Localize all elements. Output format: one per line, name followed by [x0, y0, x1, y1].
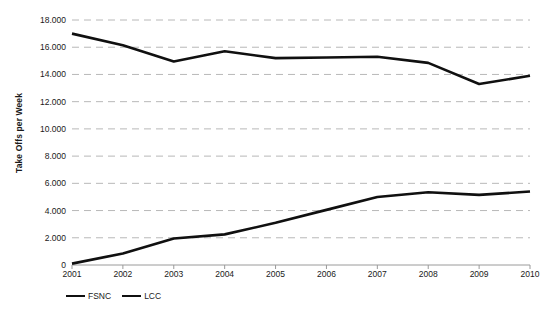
y-axis-tick-label: 2.000	[45, 233, 66, 243]
y-axis-tick-label: 8.000	[45, 151, 66, 161]
y-axis-tick-label: 14.000	[40, 69, 66, 79]
x-axis-tick-label: 2007	[354, 269, 400, 279]
y-axis-tick-labels: 02.0004.0006.0008.00010.00012.00014.0001…	[0, 20, 66, 265]
x-axis-tick-labels: 2001200220032004200520062007200820092010	[72, 269, 530, 285]
y-axis-tick-label: 4.000	[45, 206, 66, 216]
legend-label: FSNC	[88, 292, 111, 301]
series-line-fsnc	[72, 34, 530, 84]
legend-label: LCC	[144, 292, 161, 301]
y-axis-tick-label: 6.000	[45, 178, 66, 188]
series-line-lcc	[72, 192, 530, 264]
x-axis-tick-label: 2002	[100, 269, 146, 279]
x-axis-tick-label: 2008	[405, 269, 451, 279]
line-chart: Take Offs per Week 02.0004.0006.0008.000…	[0, 0, 547, 319]
legend-item-fsnc[interactable]: FSNC	[66, 292, 111, 301]
legend-line-swatch-icon	[66, 295, 85, 297]
x-axis-tick-label: 2005	[253, 269, 299, 279]
y-axis-tick-label: 16.000	[40, 42, 66, 52]
y-axis-tick-label: 18.000	[40, 15, 66, 25]
x-axis-tick-label: 2006	[303, 269, 349, 279]
x-axis-tick-label: 2003	[151, 269, 197, 279]
x-axis-tick-label: 2010	[507, 269, 547, 279]
x-axis-tick-label: 2004	[202, 269, 248, 279]
plot-area	[72, 20, 530, 265]
legend-line-swatch-icon	[122, 295, 141, 297]
x-axis-tick-label: 2009	[456, 269, 502, 279]
chart-legend: FSNCLCC	[66, 292, 161, 301]
data-series-layer	[72, 20, 530, 265]
y-axis-tick-label: 10.000	[40, 124, 66, 134]
x-axis-tick-label: 2001	[49, 269, 95, 279]
legend-item-lcc[interactable]: LCC	[122, 292, 161, 301]
y-axis-tick-label: 12.000	[40, 97, 66, 107]
